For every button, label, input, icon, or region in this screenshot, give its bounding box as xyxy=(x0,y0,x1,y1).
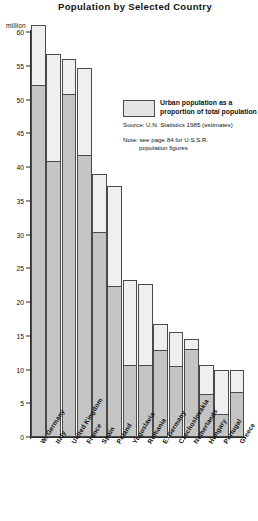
bar-urban-segment xyxy=(108,286,121,436)
bar-poland xyxy=(107,186,122,437)
y-axis-tick-15: 15 xyxy=(16,332,30,339)
y-axis-tick-60: 60 xyxy=(16,29,30,36)
urban-population-swatch xyxy=(123,100,155,117)
legend-label-line1: Urban population as a xyxy=(160,99,257,108)
bar-urban-segment xyxy=(47,161,60,436)
legend-label-line2: proportion of total population xyxy=(160,108,257,117)
y-axis-tick-10: 10 xyxy=(16,366,30,373)
x-axis-label-group: W. GermanyItalyUnited KingdomFranceSpain… xyxy=(0,441,258,521)
legend: Urban population as a proportion of tota… xyxy=(123,99,257,117)
plot-area xyxy=(31,32,245,437)
y-axis-tick-45: 45 xyxy=(16,130,30,137)
footnote: Note: see page 84 for U.S.S.R. populatio… xyxy=(123,136,255,153)
footnote-line2: population figures xyxy=(123,144,255,152)
chart-title: Population by Selected Country xyxy=(20,1,250,12)
bar-italy xyxy=(46,54,61,437)
legend-label: Urban population as a proportion of tota… xyxy=(160,99,257,116)
population-bar-chart: Population by Selected Country million 0… xyxy=(0,0,258,521)
y-axis-tick-50: 50 xyxy=(16,96,30,103)
y-axis-tick-25: 25 xyxy=(16,265,30,272)
bar-urban-segment xyxy=(63,94,76,436)
y-axis-tick-40: 40 xyxy=(16,164,30,171)
bar-urban-segment xyxy=(32,85,45,436)
y-axis-tick-5: 5 xyxy=(20,400,30,407)
bar-yugoslavia xyxy=(123,280,138,437)
bar-united-kingdom xyxy=(62,59,77,437)
source-note: Source: U.N. Statistics 1985 (estimates) xyxy=(123,121,255,129)
y-axis-tick-20: 20 xyxy=(16,299,30,306)
y-axis-tick-0: 0 xyxy=(20,434,30,441)
bar-france xyxy=(77,68,92,437)
bar-urban-segment xyxy=(78,155,91,436)
y-axis-tick-30: 30 xyxy=(16,231,30,238)
y-axis-tick-55: 55 xyxy=(16,62,30,69)
footnote-line1: Note: see page 84 for U.S.S.R. xyxy=(123,136,208,143)
y-axis-tick-35: 35 xyxy=(16,197,30,204)
bar-w-germany xyxy=(31,25,46,437)
